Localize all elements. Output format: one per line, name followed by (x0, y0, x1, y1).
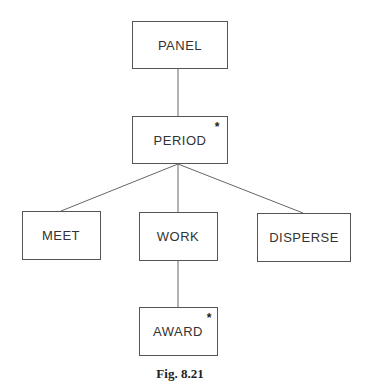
edge-period-meet (61, 164, 178, 211)
node-disperse: DISPERSE (258, 214, 351, 262)
node-label: PANEL (158, 38, 202, 53)
figure-caption: Fig. 8.21 (156, 366, 203, 381)
node-label: WORK (157, 229, 199, 244)
node-label: AWARD (153, 324, 203, 339)
node-label: MEET (42, 228, 80, 243)
edge-period-disperse (178, 164, 303, 213)
node-label: DISPERSE (269, 230, 339, 245)
diagram-canvas: PANEL PERIOD * MEET WORK DISPERSE AWARD … (0, 0, 369, 392)
node-award: AWARD * (140, 308, 218, 356)
node-meet: MEET (23, 212, 101, 260)
node-period: PERIOD * (133, 117, 228, 164)
iteration-marker: * (215, 120, 220, 134)
node-label: PERIOD (154, 133, 207, 148)
iteration-marker: * (207, 311, 212, 325)
node-panel: PANEL (133, 22, 228, 69)
node-work: WORK (140, 213, 218, 261)
